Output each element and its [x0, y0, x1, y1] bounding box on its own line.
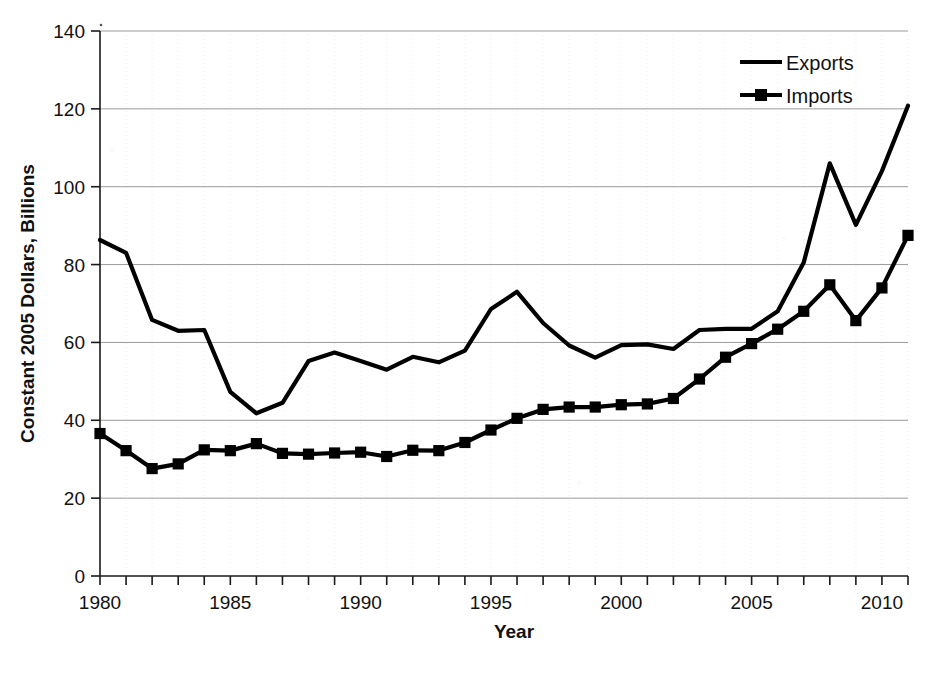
y-tick-label: 40: [64, 410, 85, 431]
series-line-exports: [100, 106, 908, 414]
data-point-marker-imports: [772, 324, 783, 335]
data-point-marker-imports: [199, 444, 210, 455]
y-tick-label: 60: [64, 332, 85, 353]
legend-label-imports: Imports: [786, 85, 853, 107]
chart-figure: 0204060801001201401980198519901995200020…: [0, 0, 934, 680]
data-point-marker-imports: [381, 451, 392, 462]
data-point-marker-imports: [225, 445, 236, 456]
data-point-marker-imports: [564, 401, 575, 412]
data-point-marker-imports: [303, 449, 314, 460]
x-tick-label: 2005: [730, 592, 772, 613]
y-tick-label: 100: [53, 177, 85, 198]
x-tick-label: 1980: [79, 592, 121, 613]
data-point-marker-imports: [485, 424, 496, 435]
data-point-marker-imports: [902, 230, 913, 241]
data-point-marker-imports: [329, 447, 340, 458]
legend-label-exports: Exports: [786, 52, 854, 74]
data-point-marker-imports: [433, 445, 444, 456]
data-point-marker-imports: [173, 458, 184, 469]
data-point-marker-imports: [511, 413, 522, 424]
data-point-marker-imports: [407, 445, 418, 456]
data-point-marker-imports: [642, 398, 653, 409]
data-point-marker-imports: [147, 463, 158, 474]
x-tick-label: 2000: [600, 592, 642, 613]
data-point-marker-imports: [459, 437, 470, 448]
data-point-marker-imports: [694, 373, 705, 384]
line-chart-canvas: 0204060801001201401980198519901995200020…: [0, 0, 934, 680]
data-point-marker-imports: [720, 352, 731, 363]
y-tick-label: 20: [64, 488, 85, 509]
data-point-marker-imports: [355, 447, 366, 458]
data-point-marker-imports: [616, 399, 627, 410]
data-point-marker-imports: [746, 338, 757, 349]
data-point-marker-imports: [824, 279, 835, 290]
data-point-marker-imports: [850, 315, 861, 326]
x-axis-title: Year: [494, 621, 535, 642]
data-point-marker-imports: [876, 282, 887, 293]
y-tick-label: 80: [64, 255, 85, 276]
data-point-marker-imports: [277, 448, 288, 459]
x-tick-label: 1995: [470, 592, 512, 613]
y-tick-label: 0: [74, 566, 85, 587]
x-tick-label: 1985: [209, 592, 251, 613]
data-point-marker-imports: [590, 401, 601, 412]
y-axis-title: Constant 2005 Dollars, Billions: [17, 164, 38, 443]
x-tick-label: 1990: [340, 592, 382, 613]
y-tick-label: 140: [53, 21, 85, 42]
data-point-marker-imports: [668, 393, 679, 404]
series-line-imports: [100, 235, 908, 468]
data-point-marker-imports: [120, 445, 131, 456]
y-tick-label: 120: [53, 99, 85, 120]
data-point-marker-imports: [251, 438, 262, 449]
data-point-marker-imports: [798, 306, 809, 317]
data-point-marker-imports: [537, 404, 548, 415]
data-point-marker-imports: [94, 428, 105, 439]
legend-marker-imports: [755, 89, 767, 101]
scan-speck: [100, 24, 103, 27]
x-tick-label: 2010: [861, 592, 903, 613]
